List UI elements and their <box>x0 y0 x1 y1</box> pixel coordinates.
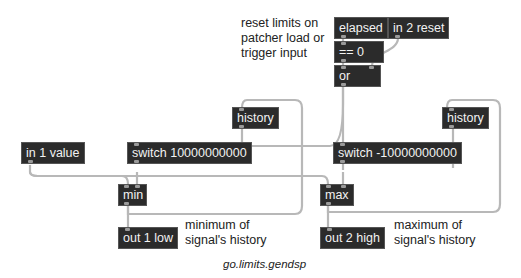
object-elapsed[interactable]: elapsed <box>335 18 387 38</box>
object-label: switch -10000000000 <box>338 146 457 160</box>
object-in-1-value[interactable]: in 1 value <box>22 143 84 163</box>
outlet[interactable] <box>340 160 345 163</box>
comment-line: minimum of <box>185 218 267 233</box>
inlet[interactable] <box>341 185 346 188</box>
inlet[interactable] <box>449 108 454 111</box>
object-label: out 2 high <box>325 231 380 245</box>
object-equals-zero[interactable]: == 0 <box>335 42 383 62</box>
object-history-right[interactable]: history <box>443 108 488 128</box>
comment-maximum: maximum of signal's history <box>394 218 476 248</box>
object-switch-max[interactable]: switch -10000000000 <box>334 143 461 163</box>
inlet[interactable] <box>239 108 244 111</box>
outlet[interactable] <box>341 35 346 38</box>
inlet[interactable] <box>134 143 139 146</box>
object-in-2-reset[interactable]: in 2 reset <box>389 18 448 38</box>
outlet[interactable] <box>239 125 244 128</box>
object-label: history <box>447 111 484 125</box>
outlet[interactable] <box>449 125 454 128</box>
inlet[interactable] <box>124 185 129 188</box>
object-max[interactable]: max <box>321 185 353 205</box>
inlet[interactable] <box>135 185 140 188</box>
comment-minimum: minimum of signal's history <box>185 218 267 248</box>
comment-line: reset limits on <box>241 16 324 31</box>
outlet[interactable] <box>124 202 129 205</box>
comment-line: signal's history <box>185 233 267 248</box>
object-label: or <box>339 69 350 83</box>
object-label: in 2 reset <box>393 21 444 35</box>
inlet[interactable] <box>340 143 345 146</box>
object-out-1-low[interactable]: out 1 low <box>119 228 177 248</box>
object-label: in 1 value <box>26 146 80 160</box>
inlet[interactable] <box>369 66 374 69</box>
object-switch-min[interactable]: switch 10000000000 <box>128 143 251 163</box>
object-label: elapsed <box>339 21 383 35</box>
outlet[interactable] <box>395 35 400 38</box>
object-label: == 0 <box>339 45 364 59</box>
figure-caption: go.limits.gendsp <box>223 258 306 270</box>
inlet[interactable] <box>125 228 130 231</box>
inlet[interactable] <box>326 185 331 188</box>
outlet[interactable] <box>28 160 33 163</box>
object-min[interactable]: min <box>119 185 146 205</box>
object-history-left[interactable]: history <box>233 108 278 128</box>
outlet[interactable] <box>341 83 346 86</box>
object-out-2-high[interactable]: out 2 high <box>321 228 384 248</box>
outlet[interactable] <box>134 160 139 163</box>
outlet[interactable] <box>326 202 331 205</box>
inlet[interactable] <box>327 228 332 231</box>
object-label: min <box>123 188 143 202</box>
outlet[interactable] <box>341 59 346 62</box>
comment-reset: reset limits on patcher load or trigger … <box>241 16 324 61</box>
object-label: max <box>325 188 349 202</box>
comment-line: signal's history <box>394 233 476 248</box>
inlet[interactable] <box>341 66 346 69</box>
inlet[interactable] <box>341 42 346 45</box>
object-label: switch 10000000000 <box>132 146 247 160</box>
object-label: out 1 low <box>123 231 173 245</box>
object-or[interactable]: or <box>335 66 380 86</box>
comment-line: patcher load or <box>241 31 324 46</box>
comment-line: trigger input <box>241 46 324 61</box>
object-label: history <box>237 111 274 125</box>
comment-line: maximum of <box>394 218 476 233</box>
